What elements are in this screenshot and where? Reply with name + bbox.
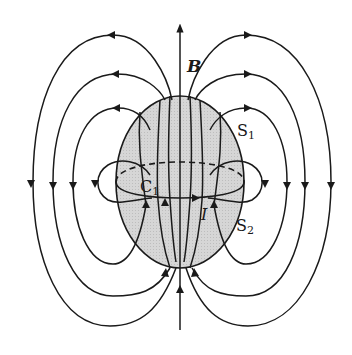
label-S2-sub: 2: [247, 224, 254, 237]
arrow-right-inner-side: [283, 182, 291, 190]
label-C1-sub: 1: [152, 185, 159, 198]
arrow-right-middle-top: [244, 70, 252, 78]
arrow-left-middle-top: [111, 70, 119, 78]
arrow-left-inner-top: [112, 104, 120, 112]
label-C1: C1: [140, 179, 159, 197]
label-S2: S2: [236, 218, 254, 236]
arrow-left-outer-side: [27, 180, 35, 188]
arrow-right-middle-side: [301, 182, 309, 190]
arrow-axis-bottom: [176, 285, 184, 293]
label-B: B: [187, 58, 201, 75]
label-I: I: [201, 207, 207, 223]
arrow-right-outer-top: [244, 31, 252, 39]
label-S1-main: S: [237, 121, 248, 140]
field-lines-drawing: [0, 0, 352, 355]
arrow-right-outer-side: [327, 182, 335, 190]
arrow-left-outer-top: [107, 31, 115, 39]
label-S1: S1: [237, 123, 255, 141]
arrow-left-middle-side: [49, 182, 57, 190]
label-S2-main: S: [236, 216, 247, 235]
label-S1-sub: 1: [248, 129, 255, 142]
arrow-right-inner-top: [244, 104, 252, 112]
label-C1-main: C: [140, 177, 152, 196]
arrow-left-inner-side: [69, 182, 77, 190]
magnetic-field-diagram: B S1 S2 C1 I: [0, 0, 352, 355]
